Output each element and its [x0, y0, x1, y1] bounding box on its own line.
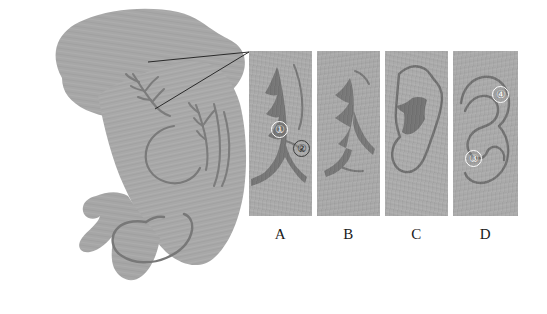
panel-b-image [317, 51, 380, 216]
panel-label-b: B [317, 226, 380, 243]
marker-3: ③ [465, 150, 482, 167]
panel-c[interactable] [385, 51, 448, 216]
marker-1: ① [271, 121, 288, 138]
panel-d-image [453, 51, 518, 216]
leader-line-lower [155, 52, 249, 109]
panel-a[interactable]: ① ② [249, 51, 312, 216]
panel-label-c: C [385, 226, 448, 243]
leader-line-upper [148, 52, 249, 62]
figure-root: ① ② A B [0, 0, 547, 314]
panel-d[interactable]: ③ ④ [453, 51, 518, 216]
panel-label-d: D [453, 226, 518, 243]
marker-4: ④ [492, 86, 509, 103]
panel-c-image [385, 51, 448, 216]
marker-2: ② [293, 140, 310, 157]
panel-b[interactable] [317, 51, 380, 216]
panel-label-a: A [249, 226, 312, 243]
